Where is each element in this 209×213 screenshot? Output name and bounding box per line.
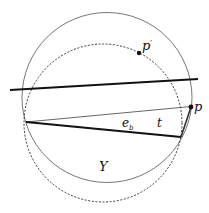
solid-circle bbox=[22, 13, 192, 183]
upper-thick-line bbox=[10, 79, 198, 90]
point-p-prime bbox=[137, 51, 141, 55]
label-e-b: eb bbox=[122, 116, 134, 132]
label-p-prime: p′ bbox=[142, 38, 152, 53]
label-p: p bbox=[194, 99, 203, 114]
label-Y: Y bbox=[99, 159, 109, 174]
geometry-diagram: p′ p eb t Y bbox=[0, 0, 209, 213]
edge-to-p bbox=[181, 107, 191, 137]
label-t: t bbox=[157, 116, 162, 130]
point-p bbox=[189, 105, 194, 110]
thin-line-to-p bbox=[26, 107, 191, 123]
